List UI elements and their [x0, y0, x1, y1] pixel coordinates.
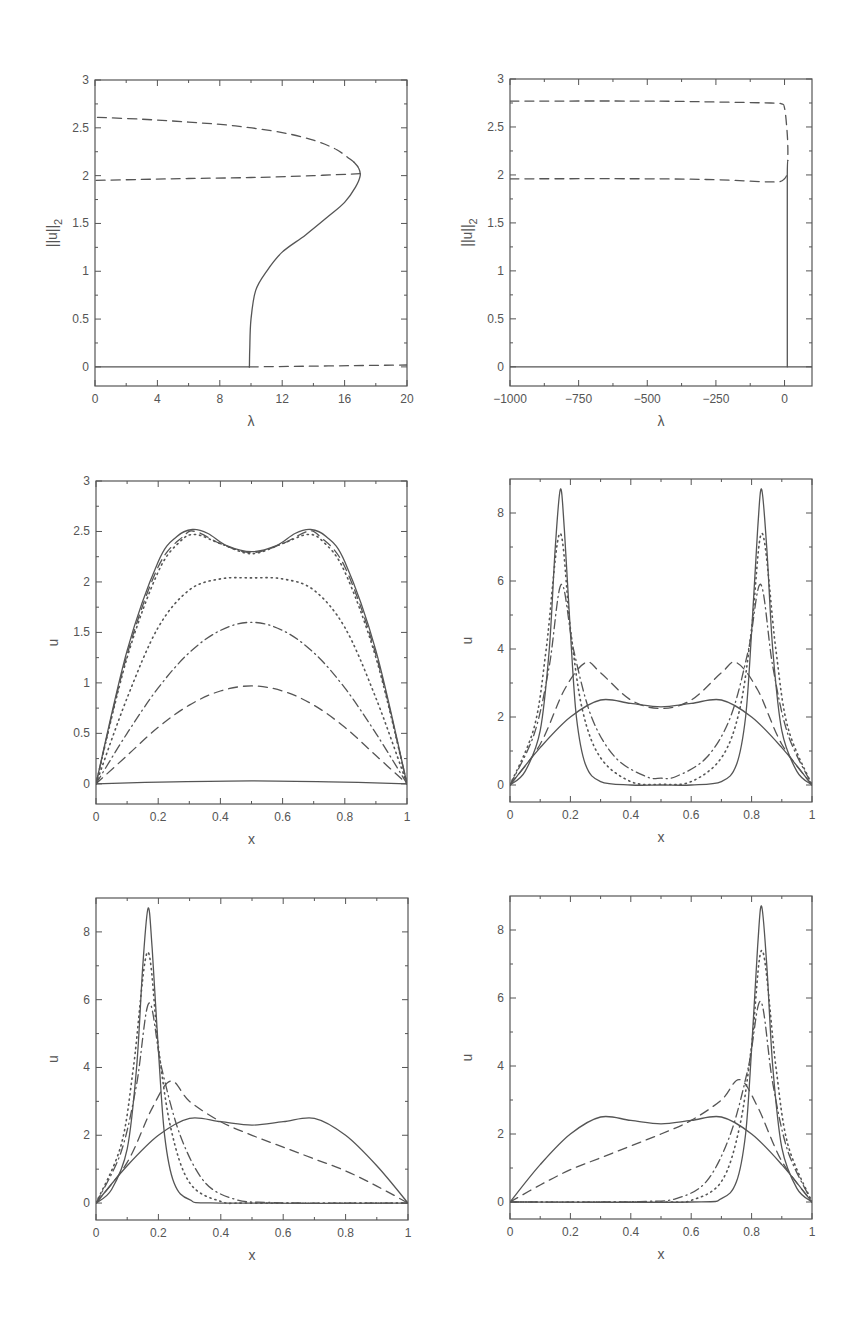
series-line	[510, 950, 812, 1202]
series-line	[96, 1118, 408, 1203]
x-tick-label: 20	[400, 392, 414, 406]
y-tick-label: 2	[83, 1128, 90, 1142]
x-tick-label: 0.6	[683, 1225, 700, 1239]
y-tick-label: 1	[83, 676, 90, 690]
y-tick-label: 1	[82, 264, 89, 278]
series-line	[510, 533, 812, 785]
panel-norm-vs-lambda-large: −1000−750−500−250000.511.522.53λ||u||2	[459, 72, 812, 429]
y-tick-label: 8	[497, 506, 504, 520]
x-tick-label: 12	[276, 392, 290, 406]
x-tick-label: 0	[507, 808, 514, 822]
x-tick-label: 0	[93, 1226, 100, 1240]
y-tick-label: 2.5	[487, 120, 504, 134]
x-tick-label: 0.8	[743, 1225, 760, 1239]
series-line	[510, 170, 787, 182]
x-tick-label: 0.6	[275, 1226, 292, 1240]
series-line	[96, 578, 407, 784]
y-tick-label: 1.5	[73, 625, 90, 639]
x-tick-label: 0.8	[337, 1226, 354, 1240]
series-line	[96, 952, 408, 1203]
series-line	[510, 584, 812, 785]
y-tick-label: 0	[497, 1195, 504, 1209]
x-tick-label: 0	[92, 392, 99, 406]
x-tick-label: 0.6	[683, 808, 700, 822]
series-line	[510, 101, 788, 160]
y-tick-label: 1.5	[487, 216, 504, 230]
x-tick-label: 16	[338, 392, 352, 406]
y-tick-label: 0.5	[72, 312, 89, 326]
x-tick-label: 1	[404, 810, 411, 824]
x-tick-label: −250	[702, 392, 729, 406]
x-tick-label: 0	[507, 1225, 514, 1239]
x-axis-label: λ	[658, 413, 665, 429]
panel-two-spike-profiles: 00.20.40.60.8102468xu	[459, 479, 816, 845]
series-line	[96, 534, 407, 783]
series-line	[510, 1001, 812, 1202]
series-line	[96, 529, 407, 783]
series-line	[510, 489, 812, 785]
y-axis-label: u	[459, 1054, 475, 1062]
y-tick-label: 6	[497, 574, 504, 588]
y-tick-label: 2	[82, 169, 89, 183]
series-line	[96, 908, 408, 1203]
x-axis-label: x	[248, 831, 255, 847]
series-line	[510, 906, 812, 1202]
plot-frame	[96, 481, 407, 804]
y-axis-label: u	[45, 639, 61, 647]
y-tick-label: 0	[82, 360, 89, 374]
panel-symmetric-profiles: 00.20.40.60.8100.511.522.53xu	[45, 474, 411, 847]
series-line	[249, 162, 360, 367]
x-tick-label: 0.4	[212, 810, 229, 824]
y-tick-label: 1	[497, 264, 504, 278]
x-tick-label: 4	[154, 392, 161, 406]
x-tick-label: 0	[781, 392, 788, 406]
y-tick-label: 4	[497, 642, 504, 656]
y-tick-label: 0	[83, 777, 90, 791]
y-tick-label: 0	[497, 778, 504, 792]
y-tick-label: 0	[497, 360, 504, 374]
y-tick-label: 2	[497, 1127, 504, 1141]
x-tick-label: −750	[565, 392, 592, 406]
y-tick-label: 2.5	[73, 524, 90, 538]
series-line	[96, 686, 407, 784]
x-tick-label: 0.2	[562, 808, 579, 822]
y-tick-label: 1.5	[72, 216, 89, 230]
y-axis-label: u	[459, 637, 475, 645]
y-tick-label: 2	[83, 575, 90, 589]
series-line	[510, 1080, 812, 1202]
series-line	[96, 622, 407, 784]
x-tick-label: 0	[93, 810, 100, 824]
y-tick-label: 2	[497, 710, 504, 724]
panel-left-spike-profiles: 00.20.40.60.8102468xu	[45, 898, 412, 1263]
x-tick-label: 1	[809, 808, 816, 822]
y-tick-label: 2	[497, 168, 504, 182]
y-tick-label: 6	[83, 993, 90, 1007]
series-line	[510, 699, 812, 785]
series-line	[510, 662, 812, 785]
series-line	[96, 531, 407, 784]
x-axis-label: x	[249, 1247, 256, 1263]
x-tick-label: 0.4	[212, 1226, 229, 1240]
series-line	[96, 1003, 408, 1203]
x-tick-label: 0.6	[274, 810, 291, 824]
x-tick-label: 0.8	[336, 810, 353, 824]
y-axis-label: ||u||2	[459, 218, 479, 246]
x-axis-label: x	[658, 1246, 665, 1262]
x-tick-label: 0.4	[622, 808, 639, 822]
x-tick-label: 0.2	[562, 1225, 579, 1239]
x-tick-label: 1	[405, 1226, 412, 1240]
x-axis-label: x	[658, 829, 665, 845]
y-tick-label: 2.5	[72, 121, 89, 135]
y-tick-label: 8	[83, 925, 90, 939]
y-tick-label: 0.5	[487, 312, 504, 326]
x-axis-label: λ	[248, 413, 255, 429]
series-line	[787, 161, 788, 367]
x-tick-label: 1	[809, 1225, 816, 1239]
x-tick-label: −1000	[493, 392, 527, 406]
series-line	[95, 117, 354, 162]
plot-frame	[510, 79, 812, 386]
y-tick-label: 3	[83, 474, 90, 488]
y-axis-label: u	[45, 1055, 61, 1063]
y-tick-label: 3	[82, 73, 89, 87]
panel-norm-vs-lambda-small: 04812162000.511.522.53λ||u||2	[44, 73, 414, 429]
